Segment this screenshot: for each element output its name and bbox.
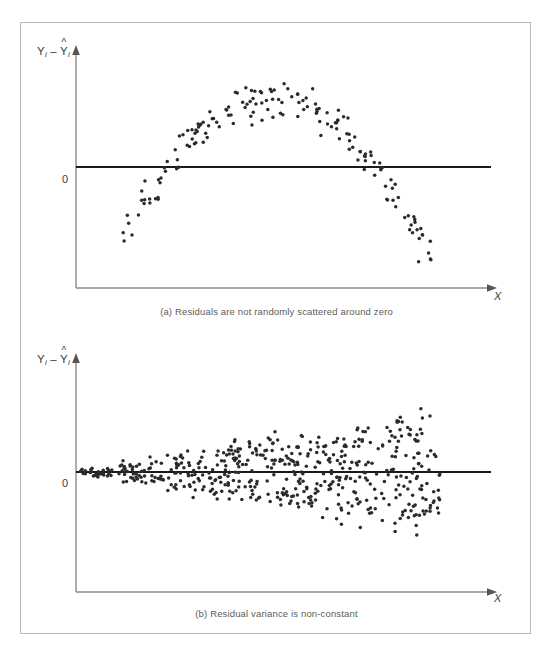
- data-point: [392, 468, 396, 472]
- data-point: [160, 462, 164, 466]
- data-point: [393, 435, 397, 439]
- data-point: [223, 459, 227, 463]
- data-point: [402, 484, 406, 488]
- data-point: [325, 111, 329, 115]
- data-point: [205, 136, 209, 140]
- data-point: [372, 161, 376, 165]
- data-point: [414, 524, 418, 528]
- data-point: [309, 440, 313, 444]
- data-point: [264, 457, 268, 461]
- data-point: [269, 87, 273, 91]
- panel-a-data-points: [121, 82, 432, 264]
- data-point: [234, 471, 238, 475]
- data-point: [348, 139, 352, 143]
- data-point: [290, 95, 294, 99]
- data-point: [109, 474, 113, 478]
- data-point: [424, 509, 428, 513]
- data-point: [137, 213, 141, 217]
- data-point: [408, 480, 412, 484]
- data-point: [243, 485, 247, 489]
- data-point: [289, 458, 293, 462]
- data-point: [219, 481, 223, 485]
- data-point: [231, 452, 235, 456]
- data-point: [173, 471, 177, 475]
- data-point: [302, 500, 306, 504]
- data-point: [131, 476, 135, 480]
- data-point: [296, 502, 300, 506]
- data-point: [193, 131, 197, 135]
- data-point: [404, 454, 408, 458]
- data-point: [381, 444, 385, 448]
- data-point: [248, 442, 252, 446]
- data-point: [186, 472, 190, 476]
- data-point: [346, 501, 350, 505]
- data-point: [359, 526, 363, 530]
- data-point: [143, 179, 147, 183]
- data-point: [173, 148, 177, 152]
- data-point: [378, 161, 382, 165]
- data-point: [310, 504, 314, 508]
- data-point: [170, 468, 174, 472]
- data-point: [316, 445, 320, 449]
- data-point: [357, 437, 361, 441]
- data-point: [251, 451, 255, 455]
- data-point: [270, 466, 274, 470]
- data-point: [348, 467, 352, 471]
- data-point: [366, 508, 370, 512]
- data-point: [190, 473, 194, 477]
- data-point: [241, 463, 245, 467]
- data-point: [273, 458, 277, 462]
- data-point: [418, 514, 422, 518]
- data-point: [124, 470, 128, 474]
- data-point: [169, 483, 173, 487]
- data-point: [419, 427, 423, 431]
- data-point: [296, 92, 300, 96]
- data-point: [122, 466, 126, 470]
- data-point: [429, 240, 433, 244]
- data-point: [429, 258, 433, 262]
- data-point: [181, 133, 185, 137]
- data-point: [128, 463, 132, 467]
- data-point: [408, 228, 412, 232]
- data-point: [389, 178, 393, 182]
- data-point: [284, 492, 288, 496]
- data-point: [374, 497, 378, 501]
- data-point: [357, 444, 361, 448]
- data-point: [235, 457, 239, 461]
- data-point: [215, 453, 219, 457]
- data-point: [252, 111, 256, 115]
- data-point: [179, 453, 183, 457]
- data-point: [198, 123, 202, 127]
- data-point: [228, 489, 232, 493]
- data-point: [349, 477, 353, 481]
- data-point: [390, 455, 394, 459]
- data-point: [385, 198, 389, 202]
- data-point: [319, 484, 323, 488]
- data-point: [415, 228, 419, 232]
- data-point: [287, 445, 291, 449]
- data-point: [255, 449, 259, 453]
- data-point: [314, 498, 318, 502]
- data-point: [260, 119, 264, 123]
- data-point: [218, 476, 222, 480]
- data-point: [223, 473, 227, 477]
- data-point: [397, 483, 401, 487]
- data-point: [295, 445, 299, 449]
- data-point: [204, 466, 208, 470]
- panel-b: Yi – Yi 0 X (b) Residual variance is non…: [21, 339, 532, 635]
- data-point: [317, 107, 321, 111]
- data-point: [279, 498, 283, 502]
- data-point: [232, 122, 236, 126]
- data-point: [337, 483, 341, 487]
- data-point: [417, 237, 421, 241]
- data-point: [384, 184, 388, 188]
- data-point: [394, 496, 398, 500]
- data-point: [232, 479, 236, 483]
- data-point: [420, 432, 424, 436]
- data-point: [424, 498, 428, 502]
- data-point: [273, 430, 277, 434]
- data-point: [255, 498, 259, 502]
- data-point: [268, 500, 272, 504]
- data-point: [286, 87, 290, 91]
- data-point: [140, 199, 144, 203]
